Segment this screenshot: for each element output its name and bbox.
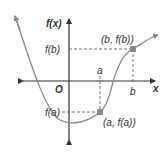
tick-label-fa: f(a) (45, 107, 60, 118)
point-label-a: (a, f(a)) (103, 117, 136, 128)
point-b (130, 46, 136, 52)
tick-label-fb: f(b) (45, 44, 60, 55)
function-graph: f(x) x O a b f(b) f(a) (b, f(b)) (a, f(a… (0, 0, 168, 153)
point-a (97, 109, 103, 115)
function-curve (15, 16, 158, 123)
tick-label-b: b (130, 86, 136, 97)
point-label-b: (b, f(b)) (101, 34, 134, 45)
tick-label-a: a (97, 65, 103, 76)
y-axis-label: f(x) (46, 18, 62, 29)
origin-label: O (55, 84, 63, 95)
x-axis-label: x (152, 83, 159, 94)
